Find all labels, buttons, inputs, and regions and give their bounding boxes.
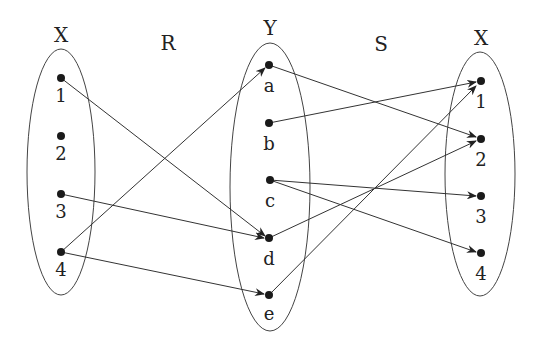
element-label: 2 <box>475 149 486 170</box>
element-label: 1 <box>475 91 486 112</box>
arrow-r-4-e <box>61 252 264 294</box>
set-x-left-elements: 1 2 3 4 <box>55 74 66 280</box>
arrow-r-4-a <box>61 68 265 252</box>
element-label: c <box>265 190 275 211</box>
element-label: a <box>264 75 275 96</box>
element-label: 2 <box>55 143 66 164</box>
set-y-elements: a b c d e <box>263 61 275 324</box>
arrow-r-3-d <box>61 194 264 238</box>
element-dot <box>477 135 485 143</box>
set-x-right-elements: 1 2 3 4 <box>475 77 486 284</box>
element-dot <box>265 119 273 127</box>
element-dot <box>265 61 273 69</box>
element-label: 4 <box>55 259 66 280</box>
set-x-right-ellipse <box>445 52 515 296</box>
element-dot <box>477 249 485 257</box>
right-set-label: X <box>474 26 489 50</box>
element-dot <box>57 248 65 256</box>
element-label: 3 <box>55 201 66 222</box>
element-dot <box>57 132 65 140</box>
element-label: d <box>263 248 275 269</box>
element-dot <box>477 192 485 200</box>
relation-s-label: S <box>374 32 388 56</box>
arrow-r-1-d <box>61 78 265 236</box>
element-label: 4 <box>475 263 486 284</box>
relation-diagram: X R Y S X 1 2 3 4 a b c d <box>0 0 537 343</box>
element-dot <box>57 74 65 82</box>
element-dot <box>477 77 485 85</box>
relation-r-label: R <box>160 31 176 55</box>
element-label: e <box>264 303 275 324</box>
arrow-s-a-2 <box>269 65 476 137</box>
element-dot <box>266 176 274 184</box>
element-dot <box>265 234 273 242</box>
element-label: 1 <box>55 85 66 106</box>
element-label: b <box>263 133 275 154</box>
element-dot <box>265 291 273 299</box>
element-dot <box>57 190 65 198</box>
left-set-label: X <box>54 23 69 47</box>
relation-r-arrows <box>61 68 265 294</box>
element-label: 3 <box>475 206 486 227</box>
middle-set-label: Y <box>262 16 277 40</box>
